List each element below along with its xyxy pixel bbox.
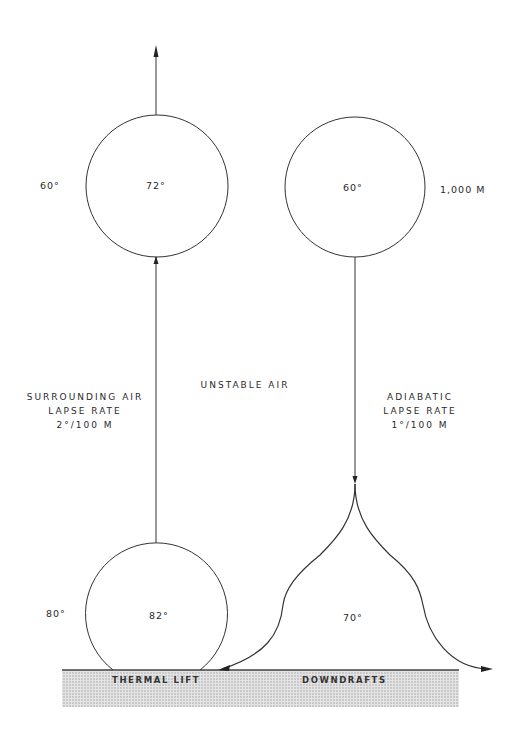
downdraft-curve-left (222, 484, 355, 669)
downdrafts-label: DOWNDRAFTS (302, 673, 387, 688)
surrounding-air-temp-bottom: 80° (46, 606, 66, 621)
surrounding-lapse-line-2: LAPSE RATE (48, 404, 122, 419)
rising-parcel-temp-top: 72° (146, 178, 166, 193)
rising-air-parcel-bottom (86, 543, 228, 670)
adiabatic-lapse-line-3: 1°/100 M (391, 418, 448, 433)
adiabatic-lapse-line-2: LAPSE RATE (383, 404, 457, 419)
thermal-lift-label: THERMAL LIFT (112, 673, 200, 688)
rising-parcel-temp-bottom: 82° (149, 608, 169, 623)
surrounding-air-temp-top: 60° (40, 178, 60, 193)
downdraft-temp: 70° (343, 610, 363, 625)
left-arrow-icon (218, 665, 230, 671)
diagram-canvas (0, 0, 528, 737)
adiabatic-lapse-line-1: ADIABATIC (387, 390, 453, 405)
surrounding-lapse-line-3: 2°/100 M (56, 418, 113, 433)
right-arrow-icon (481, 666, 493, 672)
downdraft-curve-right (355, 484, 488, 669)
up-arrow-icon (154, 45, 159, 57)
descending-parcel-temp-top: 60° (343, 180, 363, 195)
surrounding-lapse-line-1: SURROUNDING AIR (27, 390, 143, 405)
down-arrow-icon (353, 476, 358, 484)
unstable-air-label: UNSTABLE AIR (201, 378, 290, 393)
altitude-label: 1,000 M (440, 182, 485, 197)
